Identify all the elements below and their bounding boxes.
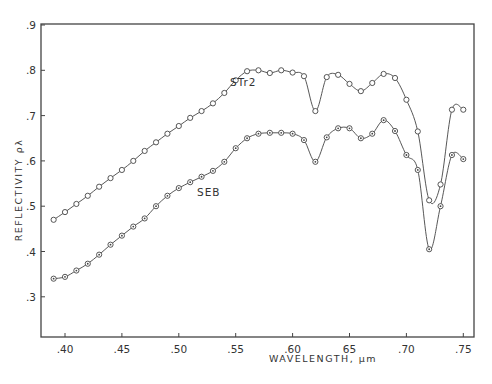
data-point-dot [144, 218, 146, 220]
series-label: SEB [197, 186, 221, 198]
data-point-dot [75, 270, 77, 272]
data-point-marker [427, 198, 432, 203]
data-point-marker [370, 80, 375, 85]
data-point-marker [131, 158, 136, 163]
data-point-dot [201, 176, 203, 178]
x-tick-label: .40 [57, 343, 74, 355]
data-point-marker [313, 108, 318, 113]
x-tick-label: .45 [114, 343, 131, 355]
data-point-dot [246, 137, 248, 139]
data-point-marker [256, 68, 261, 73]
data-point-dot [212, 170, 214, 172]
data-point-marker [108, 176, 113, 181]
data-point-marker [461, 107, 466, 112]
data-point-marker [153, 140, 158, 145]
y-tick-label: .5 [26, 200, 36, 212]
data-point-dot [223, 161, 225, 163]
data-point-dot [167, 195, 169, 197]
x-tick-label: .55 [227, 343, 244, 355]
x-tick-label: .50 [170, 343, 187, 355]
y-tick-label: .8 [26, 64, 36, 76]
data-point-marker [449, 107, 454, 112]
data-point-marker [336, 72, 341, 77]
data-point-dot [383, 119, 385, 121]
series-layer: STr2SEB [51, 68, 466, 282]
data-point-dot [326, 136, 328, 138]
data-point-marker [51, 217, 56, 222]
data-point-dot [428, 248, 430, 250]
data-point-dot [64, 276, 66, 278]
data-point-marker [404, 97, 409, 102]
y-axis-title: REFLECTIVITY ρλ [13, 139, 24, 242]
data-point-dot [292, 133, 294, 135]
data-point-marker [358, 89, 363, 94]
data-point-marker [244, 69, 249, 74]
data-point-dot [314, 161, 316, 163]
data-point-marker [415, 129, 420, 134]
data-point-dot [178, 187, 180, 189]
data-point-dot [394, 130, 396, 132]
series-seb: SEB [51, 118, 466, 282]
data-point-dot [235, 147, 237, 149]
data-point-marker [74, 201, 79, 206]
data-point-marker [279, 68, 284, 73]
y-tick-label: .9 [26, 19, 36, 31]
data-point-marker [324, 74, 329, 79]
x-axis-ticks: .40.45.50.55.6065.70.75 [57, 333, 472, 355]
data-point-marker [267, 70, 272, 75]
x-tick-label: .70 [398, 343, 415, 355]
data-point-dot [451, 154, 453, 156]
data-point-dot [360, 137, 362, 139]
data-point-dot [189, 181, 191, 183]
data-point-marker [290, 70, 295, 75]
data-point-dot [462, 158, 464, 160]
data-point-marker [142, 148, 147, 153]
data-point-marker [392, 75, 397, 80]
y-tick-label: .7 [26, 110, 36, 122]
data-point-dot [132, 226, 134, 228]
data-point-dot [417, 169, 419, 171]
data-point-marker [188, 115, 193, 120]
y-tick-label: .4 [26, 246, 36, 258]
x-tick-label: .75 [455, 343, 472, 355]
y-axis-ticks: .3.4.5.6.7.8.9 [26, 19, 45, 303]
reflectivity-chart: .40.45.50.55.6065.70.75 .3.4.5.6.7.8.9 W… [0, 0, 492, 384]
series-str2: STr2 [51, 68, 466, 223]
data-point-marker [85, 193, 90, 198]
data-point-marker [347, 81, 352, 86]
data-point-marker [97, 184, 102, 189]
data-point-marker [199, 108, 204, 113]
x-axis-title: WAVELENGTH, μm [269, 353, 377, 364]
data-point-marker [438, 182, 443, 187]
data-point-marker [119, 167, 124, 172]
data-point-dot [440, 205, 442, 207]
data-point-dot [121, 235, 123, 237]
data-point-dot [269, 132, 271, 134]
data-point-marker [165, 131, 170, 136]
data-point-dot [371, 133, 373, 135]
data-point-dot [155, 205, 157, 207]
data-point-marker [176, 123, 181, 128]
data-point-dot [87, 263, 89, 265]
y-tick-label: .6 [26, 155, 36, 167]
series-line [54, 120, 464, 279]
data-point-dot [98, 254, 100, 256]
data-point-dot [258, 133, 260, 135]
data-point-dot [337, 127, 339, 129]
data-point-dot [406, 154, 408, 156]
data-point-dot [110, 244, 112, 246]
y-tick-label: .3 [26, 291, 36, 303]
data-point-dot [280, 132, 282, 134]
data-point-marker [62, 209, 67, 214]
series-label: STr2 [230, 76, 257, 88]
data-point-marker [381, 71, 386, 76]
data-point-dot [303, 139, 305, 141]
data-point-marker [301, 74, 306, 79]
data-point-marker [210, 101, 215, 106]
data-point-dot [53, 278, 55, 280]
data-point-dot [349, 127, 351, 129]
data-point-marker [222, 90, 227, 95]
